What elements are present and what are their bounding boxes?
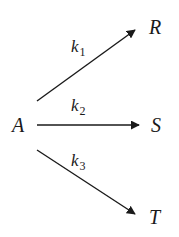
rate-constant-k2: k2 <box>71 97 86 117</box>
reactant-a-label: A <box>12 115 24 135</box>
arrow-a-to-t <box>37 150 135 214</box>
rate-k3-base: k <box>71 151 79 170</box>
product-r-label: R <box>149 17 161 37</box>
reaction-diagram: A R S T k1 k2 k3 <box>0 0 179 237</box>
rate-k3-subscript: 3 <box>80 159 86 173</box>
product-s-label: S <box>151 115 161 135</box>
product-t-label: T <box>149 207 160 227</box>
rate-k1-subscript: 1 <box>80 45 86 59</box>
arrow-a-to-r <box>37 30 135 101</box>
rate-k1-base: k <box>71 37 79 56</box>
rate-k2-base: k <box>71 96 79 115</box>
rate-constant-k1: k1 <box>71 38 86 58</box>
rate-k2-subscript: 2 <box>80 104 86 118</box>
rate-constant-k3: k3 <box>71 152 86 172</box>
